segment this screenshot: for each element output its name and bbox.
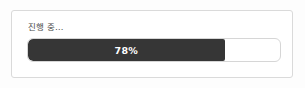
progress-bar-fill: 78%: [28, 39, 225, 61]
progress-percentage-label: 78%: [115, 45, 138, 56]
progress-bar-track[interactable]: 78%: [27, 38, 281, 62]
status-label: 진행 중…: [28, 22, 64, 33]
screen-root: 진행 중… 78%: [0, 0, 305, 88]
progress-card: 진행 중… 78%: [11, 10, 293, 78]
